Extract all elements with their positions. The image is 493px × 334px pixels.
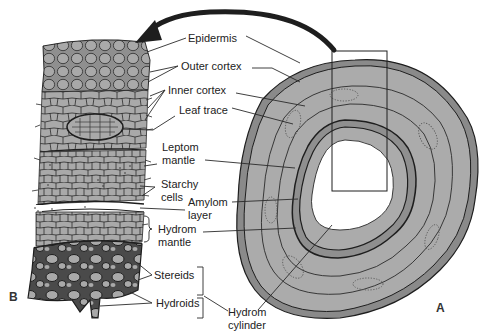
label-inner-cortex: Inner cortex <box>168 84 226 96</box>
panel-b-tissue-strip <box>28 40 153 318</box>
label-hydrom-mantle: Hydrom mantle <box>158 223 197 248</box>
panel-letter-b: B <box>9 290 18 304</box>
label-leptom-mantle: Leptom mantle <box>162 141 199 166</box>
label-hydrom-cylinder: Hydrom cylinder <box>228 306 267 331</box>
stem-anatomy-diagram: Epidermis Outer cortex Inner cortex Leaf… <box>0 0 493 334</box>
label-hydroids: Hydroids <box>156 297 199 309</box>
magnification-arrow <box>150 12 334 50</box>
label-amylom-layer: Amylom layer <box>188 196 228 221</box>
diagram-artwork <box>0 0 493 334</box>
panel-letter-a: A <box>436 301 445 315</box>
label-stereids: Stereids <box>154 269 194 281</box>
label-outer-cortex: Outer cortex <box>181 60 242 72</box>
label-leaf-trace: Leaf trace <box>179 104 228 116</box>
panel-a-cross-section <box>237 51 478 318</box>
label-epidermis: Epidermis <box>188 32 237 44</box>
